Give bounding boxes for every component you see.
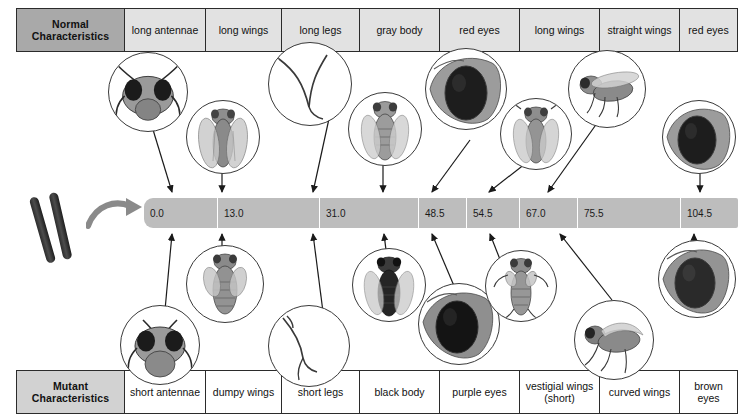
mutant-trait-bubble-3 [352,248,426,322]
mutant-trait-bubble-0 [120,305,200,385]
fly-gray-body-dorsal-icon [349,93,421,165]
normal-trait-bubble-4 [425,48,507,130]
mutant-trait-bubble-7 [658,240,736,318]
mutant-trait-bubble-2 [268,305,350,387]
fly-head-normal-antennae-icon [109,53,187,131]
connector-top-4 [432,140,470,192]
fly-black-body-dorsal-icon [353,249,425,321]
fly-long-wings-dorsal-2-icon [501,99,571,169]
normal-trait-bubble-1 [186,100,260,174]
normal-trait-bubble-5 [500,98,572,170]
normal-trait-bubble-3 [348,92,422,166]
fly-long-wings-dorsal-icon [187,101,259,173]
connector-bottom-6 [560,234,612,300]
mutant-trait-bubble-6 [574,300,654,380]
fly-curved-wings-side-icon [575,301,653,379]
fly-brown-eye-closeup-icon [659,241,735,317]
connector-bottom-2 [313,234,323,312]
fly-red-eye-closeup-2-icon [663,101,735,173]
fly-red-eye-closeup-icon [426,49,506,129]
fly-short-legs-icon [269,306,349,386]
mutant-trait-bubble-5 [485,250,557,322]
normal-trait-bubble-7 [662,100,736,174]
fly-head-short-antennae-icon [121,306,199,384]
fly-vestigial-wings-dorsal-icon [486,251,556,321]
fly-dumpy-wings-dorsal-icon [187,246,263,322]
mutant-trait-bubble-1 [186,245,264,323]
normal-trait-bubble-6 [568,50,646,128]
fly-straight-wings-side-icon [569,51,645,127]
normal-trait-bubble-2 [268,42,352,126]
connector-bottom-0 [165,234,172,310]
normal-trait-bubble-0 [108,52,188,132]
fly-long-legs-icon [269,43,351,125]
gene-map-diagram: Normal Characteristics long antennae lon… [0,0,754,419]
